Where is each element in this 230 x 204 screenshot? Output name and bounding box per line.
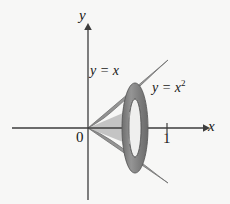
curve-label-parabola-exponent: 2: [181, 78, 186, 88]
y-axis-arrowhead: [84, 23, 92, 30]
curve-label-line: y = x: [90, 64, 119, 78]
washer-inner-hole: [129, 99, 141, 157]
x-tick-label-1: 1: [163, 131, 171, 146]
origin-label: 0: [76, 130, 84, 145]
solid-of-revolution-figure: y x 0 1 y = x y = x2: [0, 0, 230, 204]
y-axis-label: y: [79, 8, 86, 23]
curve-label-parabola-base: y = x: [152, 80, 181, 95]
washer-cross-section: [122, 83, 148, 173]
x-axis-label: x: [208, 119, 215, 134]
curve-label-parabola: y = x2: [152, 81, 185, 95]
figure-canvas: [0, 0, 230, 204]
y-axis: [84, 23, 92, 200]
